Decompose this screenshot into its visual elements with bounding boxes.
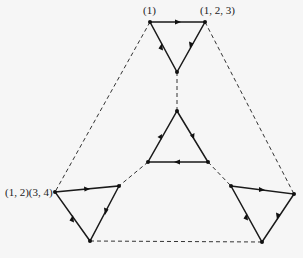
dashed-edge bbox=[205, 22, 294, 194]
label-double-transposition: (1, 2)(3, 4) bbox=[5, 186, 53, 199]
vertex bbox=[292, 192, 296, 196]
vertex bbox=[88, 239, 92, 243]
dashed-edges bbox=[55, 22, 294, 242]
triangle-top bbox=[148, 20, 207, 75]
vertex bbox=[146, 160, 150, 164]
arrow-icon bbox=[84, 187, 90, 192]
arrow-icon bbox=[175, 20, 181, 25]
cayley-diagram: (1) (1, 2, 3) (1, 2)(3, 4) bbox=[0, 0, 303, 258]
vertex bbox=[117, 184, 121, 188]
triangle-right bbox=[229, 184, 296, 244]
arrow-icon bbox=[158, 134, 163, 140]
vertex bbox=[175, 109, 179, 113]
dashed-edge bbox=[90, 241, 262, 242]
vertex bbox=[206, 160, 210, 164]
triangle-middle bbox=[146, 109, 210, 165]
vertex bbox=[203, 20, 207, 24]
vertex bbox=[175, 70, 179, 74]
dashed-edge bbox=[119, 162, 148, 186]
label-three-cycle: (1, 2, 3) bbox=[200, 4, 235, 17]
dashed-edge bbox=[208, 162, 231, 186]
vertex bbox=[260, 240, 264, 244]
label-identity: (1) bbox=[143, 4, 156, 17]
vertex bbox=[229, 184, 233, 188]
vertex bbox=[148, 20, 152, 24]
arrow-icon bbox=[174, 160, 180, 165]
dashed-edge bbox=[55, 22, 150, 192]
vertex bbox=[53, 190, 57, 194]
triangle-left bbox=[53, 184, 121, 243]
